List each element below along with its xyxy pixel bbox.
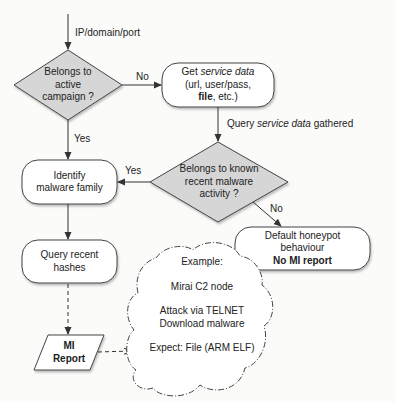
example-title: Example: — [181, 256, 223, 269]
edge-label-yes-1: Yes — [74, 133, 90, 145]
get-service-data-line-1: Get service data — [182, 66, 255, 79]
dashed-arrow-to-example — [98, 351, 131, 352]
no-mi-report-label: No MI report — [273, 255, 332, 268]
identify-family-node: Identify malware family — [22, 160, 117, 204]
decision-known-malware-line-2: recent malware — [185, 176, 253, 189]
get-service-data-prefix: Get — [182, 66, 201, 77]
example-node: Mirai C2 node — [171, 281, 233, 294]
decision-known-malware-line-3: activity ? — [200, 188, 239, 201]
default-honeypot-line-1: Default honeypot — [265, 230, 341, 243]
example-attack-line-1: Attack via TELNET — [160, 305, 244, 318]
decision-active-campaign-line-1: Belongs to — [44, 66, 91, 79]
identify-family-line-1: Identify — [53, 170, 85, 183]
edge-label-yes-2: Yes — [125, 165, 141, 177]
decision-active-campaign-line-3: campaign ? — [42, 91, 94, 104]
get-service-data-file: file — [198, 91, 212, 102]
edge-label-query-service-data: Query service data gathered — [227, 118, 353, 130]
decision-known-malware: Belongs to known recent malware activity… — [172, 161, 266, 203]
get-service-data-etc: , etc.) — [213, 91, 238, 102]
query-prefix: Query — [227, 118, 257, 129]
decision-active-campaign-line-2: active — [55, 79, 81, 92]
example-attack-line-2: Download malware — [159, 318, 244, 331]
identify-family-line-2: malware family — [36, 182, 103, 195]
example-expect: Expect: File (ARM ELF) — [149, 342, 254, 355]
get-service-data-node: Get service data (url, user/pass, file, … — [162, 63, 274, 107]
query-suffix: gathered — [311, 118, 353, 129]
decision-active-campaign: Belongs to active campaign ? — [30, 64, 106, 106]
get-service-data-italic: service data — [200, 66, 254, 77]
query-hashes-line-1: Query recent — [41, 249, 99, 262]
decision-known-malware-line-1: Belongs to known — [180, 163, 259, 176]
default-honeypot-line-2: behaviour — [281, 242, 325, 255]
mi-report-line-2: Report — [53, 353, 85, 366]
edge-label-no-1: No — [136, 71, 149, 83]
query-hashes-line-2: hashes — [53, 262, 85, 275]
get-service-data-line-3: file, etc.) — [198, 91, 237, 104]
query-hashes-node: Query recent hashes — [22, 240, 117, 283]
edge-label-no-2: No — [270, 203, 283, 215]
query-italic: service data — [257, 118, 311, 129]
mi-report-line-1: MI — [63, 340, 74, 353]
mi-report-node: MI Report — [40, 335, 98, 370]
get-service-data-line-2: (url, user/pass, — [185, 79, 251, 92]
start-input-label: IP/domain/port — [75, 27, 140, 39]
example-cloud: Example: Mirai C2 node Attack via TELNET… — [132, 255, 272, 385]
